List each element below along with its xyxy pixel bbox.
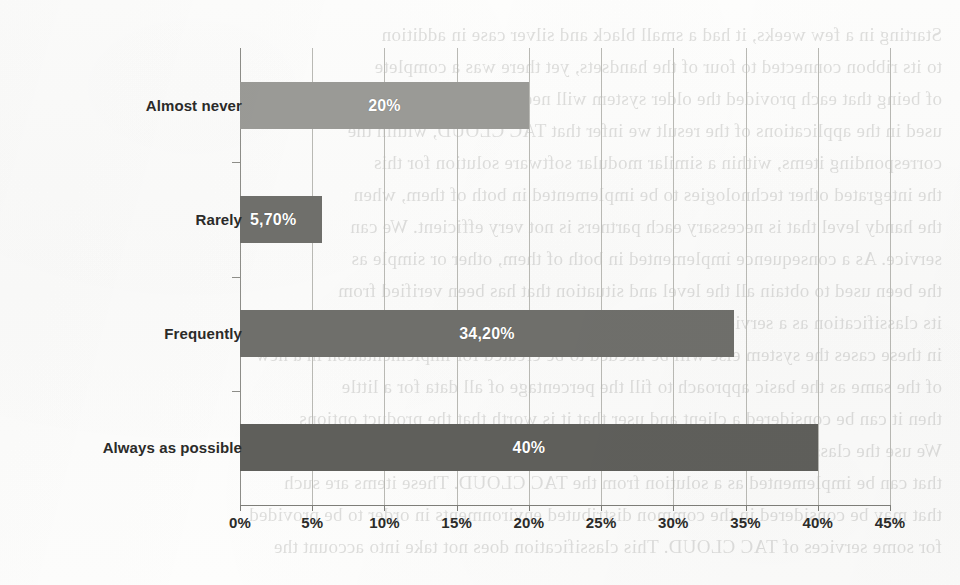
value-axis-tick-label: 45% (860, 514, 920, 531)
scanned-page: Starting in a few weeks, it had a small … (0, 0, 960, 585)
category-axis-tick (232, 391, 240, 392)
bar[interactable]: 34,20% (240, 310, 734, 357)
gridline (818, 48, 819, 505)
value-axis-tick (312, 505, 313, 511)
value-axis-tick (673, 505, 674, 511)
value-axis-tick (240, 505, 241, 511)
value-axis-tick (529, 505, 530, 511)
horizontal-bar-chart: 20%5,70%34,20%40% Almost neverRarelyFreq… (0, 0, 960, 585)
value-axis-tick-label: 10% (354, 514, 414, 531)
value-axis-tick (457, 505, 458, 511)
value-axis-tick-label: 40% (788, 514, 848, 531)
bar[interactable]: 20% (240, 82, 529, 129)
value-axis-tick-label: 5% (282, 514, 342, 531)
value-axis-tick (890, 505, 891, 511)
bar-value-label: 5,70% (250, 196, 296, 243)
gridline (890, 48, 891, 505)
value-axis-tick (384, 505, 385, 511)
category-axis-tick (232, 162, 240, 163)
value-axis-tick-label: 15% (427, 514, 487, 531)
value-axis-tick-label: 30% (643, 514, 703, 531)
category-axis-tick (232, 277, 240, 278)
value-axis-tick-label: 25% (571, 514, 631, 531)
value-axis-tick (601, 505, 602, 511)
value-axis-tick (818, 505, 819, 511)
category-label: Always as possible (103, 424, 242, 471)
category-label: Almost never (146, 82, 242, 129)
value-axis-tick-label: 0% (210, 514, 270, 531)
bar[interactable]: 5,70% (240, 196, 322, 243)
bar-value-label: 20% (240, 82, 529, 129)
category-label: Rarely (196, 196, 242, 243)
value-axis-tick-label: 20% (499, 514, 559, 531)
value-axis-tick-label: 35% (716, 514, 776, 531)
value-axis-line (240, 505, 891, 506)
bar-value-label: 34,20% (240, 310, 734, 357)
bar-value-label: 40% (240, 424, 818, 471)
value-axis-tick (746, 505, 747, 511)
category-label: Frequently (164, 310, 242, 357)
bar[interactable]: 40% (240, 424, 818, 471)
